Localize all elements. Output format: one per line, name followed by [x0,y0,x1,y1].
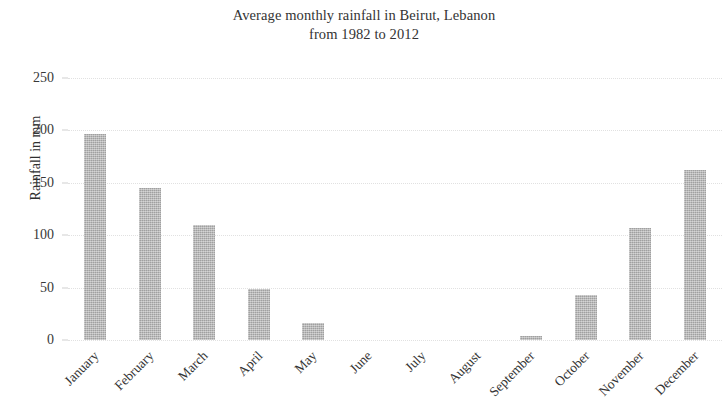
x-label-slot-april: April [232,344,287,420]
bar-slot-march [177,78,232,340]
x-axis-label-august: August [445,348,484,387]
chart-title-line-1: Average monthly rainfall in Beirut, Leba… [0,6,728,25]
bar-february [139,188,161,340]
bar-slot-august [450,78,505,340]
bar-slot-september [504,78,559,340]
bar-april [248,289,270,340]
bar-december [684,170,706,340]
gridline-0 [68,340,722,342]
chart-title: Average monthly rainfall in Beirut, Leba… [0,6,728,45]
x-label-slot-december: December [668,344,723,420]
x-axis-labels: JanuaryFebruaryMarchAprilMayJuneJulyAugu… [68,344,722,420]
x-axis-label-april: April [235,348,266,379]
y-axis-ticks: 050100150200250 [0,78,62,340]
bar-january [84,134,106,340]
bar-october [575,295,597,340]
bar-slot-february [123,78,178,340]
bar-slot-june [341,78,396,340]
bar-slot-december [668,78,723,340]
x-axis-label-january: January [62,348,103,389]
bar-slot-may [286,78,341,340]
bar-slot-october [559,78,614,340]
plot-area [68,78,722,340]
x-axis-label-may: May [292,348,321,377]
bar-slot-july [395,78,450,340]
x-axis-label-june: June [346,348,375,377]
bar-slot-november [613,78,668,340]
x-axis-label-july: July [402,348,429,375]
y-tick-label-150: 150 [33,175,54,191]
y-tick-label-250: 250 [33,70,54,86]
y-tick-label-100: 100 [33,227,54,243]
bar-november [629,228,651,340]
x-label-slot-june: June [341,344,396,420]
bar-march [193,225,215,340]
x-label-slot-july: July [395,344,450,420]
x-label-slot-september: September [504,344,559,420]
y-tick-label-50: 50 [40,280,54,296]
bar-september [520,336,542,340]
x-label-slot-february: February [123,344,178,420]
y-tick-label-0: 0 [47,332,54,348]
x-axis-label-march: March [175,348,211,384]
bar-may [302,323,324,340]
bar-slot-april [232,78,287,340]
chart-title-line-2: from 1982 to 2012 [0,25,728,44]
y-tick-label-200: 200 [33,122,54,138]
rainfall-bar-chart: Average monthly rainfall in Beirut, Leba… [0,0,728,420]
bar-slot-january [68,78,123,340]
x-label-slot-may: May [286,344,341,420]
x-label-slot-march: March [177,344,232,420]
